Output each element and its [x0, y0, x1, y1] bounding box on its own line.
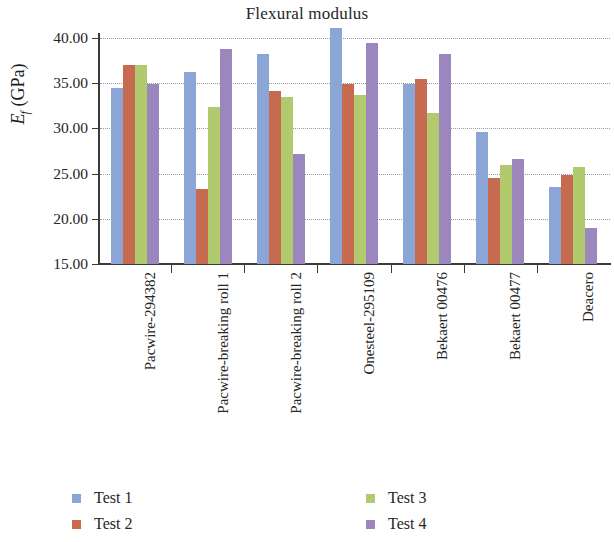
bar — [330, 28, 342, 264]
x-axis-category-label: Pacwire-breaking roll 2 — [288, 272, 306, 414]
bar — [196, 189, 208, 264]
bar — [147, 84, 159, 264]
bars-layer — [98, 38, 611, 264]
bar — [415, 79, 427, 264]
bar — [500, 165, 512, 264]
bar — [439, 54, 451, 264]
y-axis-tick-label: 20.00 — [22, 210, 88, 228]
bar — [573, 167, 585, 264]
bar — [512, 159, 524, 264]
bar — [342, 84, 354, 264]
y-axis-tick-labels: 40.0035.0030.0025.0020.0015.00 — [16, 0, 88, 542]
x-axis-separator-tick — [391, 265, 392, 273]
x-axis-separator-tick — [244, 265, 245, 273]
y-axis-tick-label: 25.00 — [22, 165, 88, 183]
bar — [476, 132, 488, 264]
bar — [488, 178, 500, 264]
chart-title: Flexural modulus — [0, 4, 614, 24]
x-axis-category-label: Pacwire-294382 — [142, 272, 160, 370]
bar — [585, 228, 597, 264]
bar — [184, 72, 196, 264]
bar — [269, 91, 281, 264]
legend-label: Test 1 — [94, 490, 132, 506]
legend-swatch — [72, 520, 81, 529]
y-axis-tick-label: 35.00 — [22, 74, 88, 92]
legend-label: Test 4 — [388, 516, 426, 532]
x-axis-category-label: Onesteel-295109 — [361, 272, 379, 374]
y-axis-tick-label: 40.00 — [22, 29, 88, 47]
legend-swatch — [366, 494, 375, 503]
legend-swatch — [366, 520, 375, 529]
legend-item[interactable]: Test 3 — [366, 487, 426, 509]
x-axis-category-label: Deacero — [580, 272, 598, 322]
bar — [403, 84, 415, 264]
bar — [561, 175, 573, 264]
bar — [135, 65, 147, 264]
legend-label: Test 3 — [388, 490, 426, 506]
bar — [293, 154, 305, 264]
x-axis-separator-tick — [537, 265, 538, 273]
x-axis-separator-tick — [171, 265, 172, 273]
bar — [257, 54, 269, 264]
legend-item[interactable]: Test 1 — [72, 487, 132, 509]
bar — [281, 97, 293, 264]
y-axis-tick-label: 30.00 — [22, 119, 88, 137]
x-axis-separator-tick — [464, 265, 465, 273]
bar — [549, 187, 561, 264]
x-axis-category-label: Pacwire-breaking roll 1 — [215, 272, 233, 414]
legend-item[interactable]: Test 2 — [72, 513, 132, 535]
legend-swatch — [72, 494, 81, 503]
bar — [111, 88, 123, 264]
bar — [354, 95, 366, 264]
bar — [366, 43, 378, 264]
y-axis-tick-label: 15.00 — [22, 255, 88, 273]
chart-legend: Test 1Test 2Test 3Test 4 — [72, 487, 502, 539]
bar — [208, 107, 220, 264]
legend-label: Test 2 — [94, 516, 132, 532]
bar — [123, 65, 135, 264]
x-axis-category-label: Bekaert 00477 — [507, 272, 525, 360]
legend-item[interactable]: Test 4 — [366, 513, 426, 535]
bar — [220, 49, 232, 264]
x-axis-category-label: Bekaert 00476 — [434, 272, 452, 360]
flexural-modulus-chart: Flexural modulus Ef (GPa) 40.0035.0030.0… — [0, 0, 614, 542]
bar — [427, 113, 439, 264]
x-axis-separator-tick — [317, 265, 318, 273]
